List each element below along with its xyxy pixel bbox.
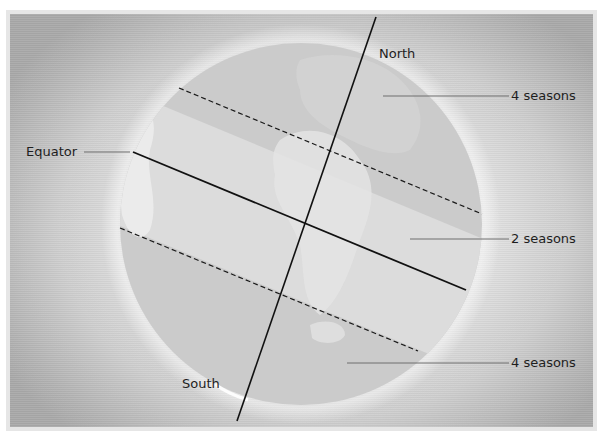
north-zone-label: 4 seasons [511, 89, 576, 102]
equator-label: Equator [26, 145, 77, 158]
north-label: North [379, 47, 415, 60]
south-label: South [182, 377, 220, 390]
tropical-zone-label: 2 seasons [511, 232, 576, 245]
south-zone-label: 4 seasons [511, 356, 576, 369]
seasons-globe-diagram [0, 0, 607, 441]
